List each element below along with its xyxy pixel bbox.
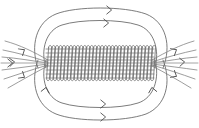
arrow-bottom-left-return — [41, 87, 50, 93]
arrow-right-mid-fringe — [180, 58, 185, 66]
field-diagram-canvas — [0, 0, 199, 128]
arrow-bottom-inner — [101, 100, 106, 108]
arrow-bottom-right-return — [148, 87, 157, 93]
solenoid-field-figure: Magnetic field of a current-carrying sol… — [0, 0, 199, 128]
left-fringe-ray-6 — [8, 66, 48, 88]
left-end-fringe-fan — [1, 41, 48, 88]
left-fringe-ray-1 — [5, 41, 48, 60]
right-fringe-ray-1 — [152, 41, 194, 60]
arrow-top-outer — [107, 6, 112, 14]
right-end-fringe-fan — [152, 41, 198, 88]
